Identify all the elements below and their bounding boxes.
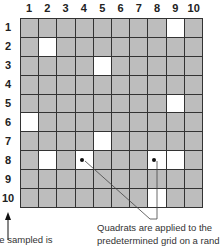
caption-right-line2: predetermined grid on a rand (97, 235, 220, 246)
caption-right-line1: Quadrats are applied to the (97, 222, 212, 233)
caption-left: he sampled is (0, 234, 53, 245)
arrow-up-icon (5, 212, 11, 220)
